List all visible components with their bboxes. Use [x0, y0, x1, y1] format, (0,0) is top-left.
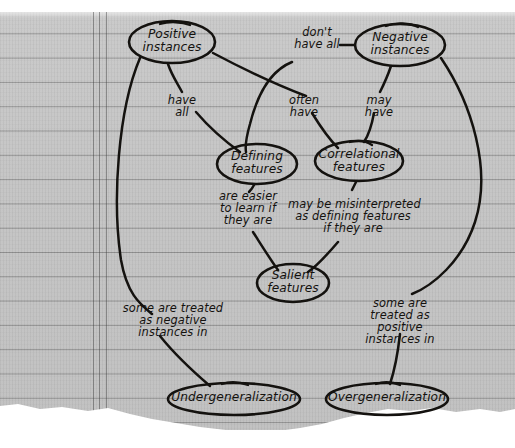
link-positive-to-have-all: [168, 64, 182, 92]
link-negative-label-to-undergeneralization: [160, 336, 210, 386]
link-negative-to-overgeneralization-label: [412, 58, 481, 294]
node-label-defining-features: Defining features: [219, 150, 295, 176]
edge-label-often-have: often have: [279, 94, 329, 118]
edge-label-are-easier-to-learn: are easier to learn if they are: [208, 190, 288, 226]
notebook-screenshot: Positive instances Negative instances De…: [0, 0, 515, 448]
edge-label-have-all: have all: [157, 94, 207, 118]
edge-label-may-be-misinterpreted: may be misinterpreted as defining featur…: [288, 198, 418, 234]
link-correlational-to-may-be: [352, 182, 356, 190]
node-label-undergeneralization: Undergeneralization: [168, 391, 300, 404]
link-negative-to-may-have: [380, 66, 391, 92]
node-label-correlational-features: Correlational features: [314, 147, 404, 173]
edge-label-treated-as-positive: some are treated as positive instances i…: [355, 297, 445, 345]
edge-label-may-have: may have: [356, 94, 402, 118]
node-label-positive-instances: Positive instances: [132, 28, 212, 54]
node-label-overgeneralization: Overgeneralization: [327, 391, 447, 404]
node-label-salient-features: Salient features: [258, 269, 328, 295]
sketch-overshoot-positive: [160, 22, 190, 25]
link-are-easier-to-salient: [253, 232, 278, 270]
edge-label-dont-have-all: don't have all: [286, 26, 348, 50]
link-positive-to-often-have: [213, 53, 306, 96]
link-positive-to-undergeneralization-label: [117, 58, 152, 314]
edge-label-treated-as-negative: some are treated as negative instances i…: [117, 302, 229, 338]
node-label-negative-instances: Negative instances: [358, 31, 442, 57]
